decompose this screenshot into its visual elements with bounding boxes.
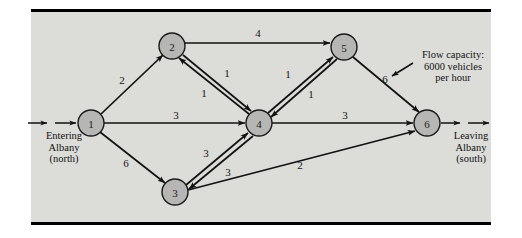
node-1-label: 1 — [88, 118, 94, 130]
entering-line-2: Albany — [32, 142, 96, 154]
node-6[interactable]: 6 — [414, 110, 440, 136]
leaving-line-1: Leaving — [440, 130, 502, 142]
edge-1-3 — [100, 132, 165, 183]
leaving-albany-label: Leaving Albany (south) — [440, 130, 502, 165]
capacity-label-2-4: 1 — [224, 67, 230, 79]
node-3[interactable]: 3 — [162, 179, 188, 205]
node-5-label: 5 — [341, 42, 347, 54]
capacity-label-5-4: 1 — [308, 88, 314, 100]
network-graph: 1 2 3 4 5 6 2 3 6 4 1 1 1 1 3 3 — [0, 0, 522, 238]
edge-5-4 — [271, 59, 337, 117]
flow-network-figure: 1 2 3 4 5 6 2 3 6 4 1 1 1 1 3 3 — [0, 0, 522, 238]
capacity-label-1-4: 3 — [173, 109, 179, 121]
capacity-label-4-3: 3 — [225, 166, 231, 178]
flow-capacity-line-2: 6000 vehicles — [413, 61, 493, 73]
capacity-label-4-6: 3 — [342, 109, 348, 121]
edge-4-2 — [179, 58, 249, 114]
capacity-label-3-4: 3 — [203, 147, 209, 159]
node-3-label: 3 — [172, 187, 178, 199]
leaving-line-3: (south) — [440, 153, 502, 165]
node-6-label: 6 — [424, 118, 430, 130]
capacity-label-4-5: 1 — [285, 68, 291, 80]
node-2-label: 2 — [169, 41, 175, 53]
flow-capacity-line-3: per hour — [413, 72, 493, 84]
flow-capacity-line-1: Flow capacity: — [413, 49, 493, 61]
capacity-label-1-3: 6 — [123, 157, 129, 169]
node-4[interactable]: 4 — [246, 110, 272, 136]
edge-2-4 — [183, 55, 251, 111]
leaving-line-2: Albany — [440, 142, 502, 154]
flow-capacity-pointer — [392, 63, 413, 76]
capacity-label-1-2: 2 — [119, 74, 125, 86]
capacity-label-4-2: 1 — [201, 87, 207, 99]
entering-line-3: (north) — [32, 153, 96, 165]
capacity-label-2-5: 4 — [255, 27, 261, 39]
flow-capacity-annotation: Flow capacity: 6000 vehicles per hour — [413, 49, 493, 84]
node-2[interactable]: 2 — [159, 33, 185, 59]
entering-albany-label: Entering Albany (north) — [32, 130, 96, 165]
edge-4-5 — [268, 57, 333, 113]
node-5[interactable]: 5 — [331, 34, 357, 60]
entering-line-1: Entering — [32, 130, 96, 142]
capacity-label-3-6: 2 — [297, 159, 303, 171]
capacity-label-5-6: 6 — [382, 73, 388, 85]
node-4-label: 4 — [256, 118, 262, 130]
edge-1-2 — [101, 55, 163, 114]
